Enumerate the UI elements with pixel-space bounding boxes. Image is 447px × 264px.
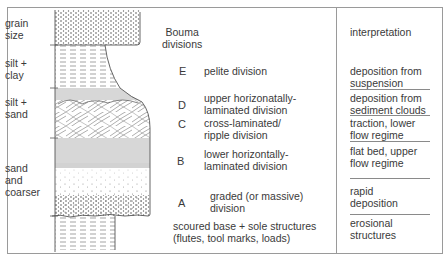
bouma-divisions-header: Bouma divisions (162, 26, 202, 50)
division-letter-d: D (178, 99, 186, 111)
interpretation-d: deposition from sediment clouds (350, 92, 426, 116)
division-desc-d: upper horizonatally- laminated division (204, 92, 296, 116)
base-description: scoured base + sole structures (flutes, … (173, 220, 316, 244)
division-letter-b: B (177, 155, 184, 167)
interpretation-c: traction, lower flow regime (350, 117, 415, 141)
division-desc-c: cross-laminated/ ripple division (204, 117, 281, 141)
interpretation-a: rapid deposition (350, 185, 398, 209)
interpretation-e: deposition from suspension (350, 65, 422, 89)
division-desc-a: graded (or massive) division (210, 190, 303, 214)
division-desc-e: pelite division (204, 65, 267, 77)
division-letter-a: A (178, 197, 185, 209)
division-letter-e: E (179, 65, 186, 77)
grain-label-sand-coarser: sand and coarser (5, 162, 40, 198)
grain-label-silt-clay: silt + clay (5, 57, 27, 81)
division-desc-b: lower horizontally- laminated division (204, 148, 289, 172)
interpretation-divider (350, 178, 430, 179)
interpretation-divider (350, 141, 430, 142)
grain-label-silt-sand: silt + sand (5, 96, 28, 120)
division-letter-c: C (178, 118, 186, 130)
interpretation-divider (350, 115, 430, 116)
interpretation-divider (350, 214, 430, 215)
interpretation-divider (350, 89, 430, 90)
overlying-bed (55, 10, 140, 45)
interpretation-header: interpretation (350, 26, 411, 38)
grain-size-title: grain size (5, 17, 28, 41)
interpretation-b: flat bed, upper flow regime (350, 145, 417, 169)
interpretation-base: erosional structures (350, 217, 396, 241)
